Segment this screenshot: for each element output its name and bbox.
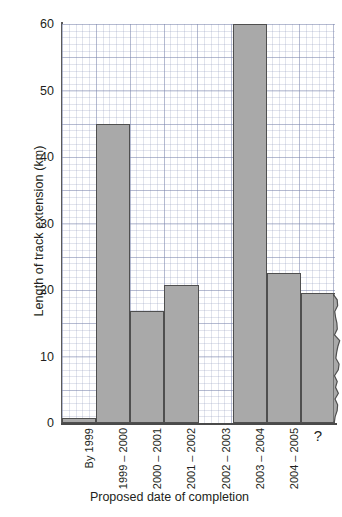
x-tick-label: 2002 – 2003 bbox=[221, 428, 232, 489]
x-tick-label: 2003 – 2004 bbox=[255, 428, 266, 489]
x-tick-label: 2000 – 2001 bbox=[152, 428, 163, 489]
y-tick-label: 10 bbox=[22, 350, 54, 363]
bar bbox=[301, 293, 335, 423]
bar bbox=[267, 273, 301, 423]
y-tick-label: 0 bbox=[22, 417, 54, 430]
x-axis-tick-labels: By 19991999 – 20002000 – 20012001 – 2002… bbox=[62, 423, 335, 493]
y-tick-label: 30 bbox=[22, 217, 54, 230]
y-tick-label: 60 bbox=[22, 18, 54, 31]
bar bbox=[130, 311, 164, 423]
y-tick-label: 20 bbox=[22, 284, 54, 297]
bar bbox=[164, 285, 198, 423]
bars-layer bbox=[62, 24, 335, 423]
y-axis-tick-labels: 0102030405060 bbox=[22, 0, 54, 517]
x-tick-label: ? bbox=[298, 428, 338, 443]
y-tick-label: 40 bbox=[22, 151, 54, 164]
x-tick-label: 2001 – 2002 bbox=[186, 428, 197, 489]
x-tick-label: 1999 – 2000 bbox=[118, 428, 129, 489]
bar bbox=[96, 124, 130, 423]
x-axis-title: Proposed date of completion bbox=[0, 490, 339, 504]
y-tick-label: 50 bbox=[22, 84, 54, 97]
x-tick-label: By 1999 bbox=[84, 428, 95, 468]
torn-edge-icon bbox=[333, 294, 342, 422]
bar bbox=[233, 24, 267, 423]
